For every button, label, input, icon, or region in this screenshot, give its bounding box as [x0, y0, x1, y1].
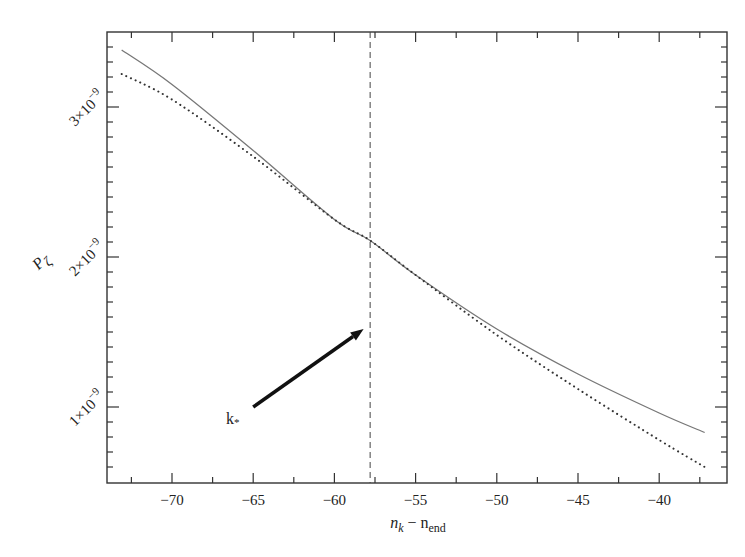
- approximation-curve: [122, 74, 705, 467]
- data-series: [122, 50, 705, 467]
- annotations: [253, 32, 370, 483]
- x-tick-label: −55: [404, 492, 427, 508]
- y-axis-ticks: [107, 47, 727, 467]
- y-axis-label: Pζ: [28, 249, 56, 277]
- x-axis-label: nk − nend: [390, 514, 446, 535]
- chart: −70−65−60−55−50−45−40 3×10−9 2×10−9 1×10…: [0, 0, 745, 557]
- plot-frame: [107, 32, 727, 483]
- k-star-arrow: [253, 336, 353, 407]
- k-star-annotation-label: k*: [226, 410, 240, 428]
- y-tick-label-2e-9: 2×10−9: [63, 235, 108, 280]
- x-tick-label: −70: [160, 492, 183, 508]
- x-tick-label: −40: [647, 492, 670, 508]
- x-tick-label: −60: [323, 492, 346, 508]
- x-axis-ticks: −70−65−60−55−50−45−40: [131, 32, 699, 508]
- exact-curve: [122, 50, 705, 433]
- y-tick-label-1e-9: 1×10−9: [63, 385, 108, 430]
- y-tick-label-3e-9: 3×10−9: [63, 85, 108, 130]
- x-tick-label: −65: [241, 492, 264, 508]
- x-tick-label: −50: [485, 492, 508, 508]
- x-tick-label: −45: [566, 492, 589, 508]
- plot-border: [107, 32, 727, 483]
